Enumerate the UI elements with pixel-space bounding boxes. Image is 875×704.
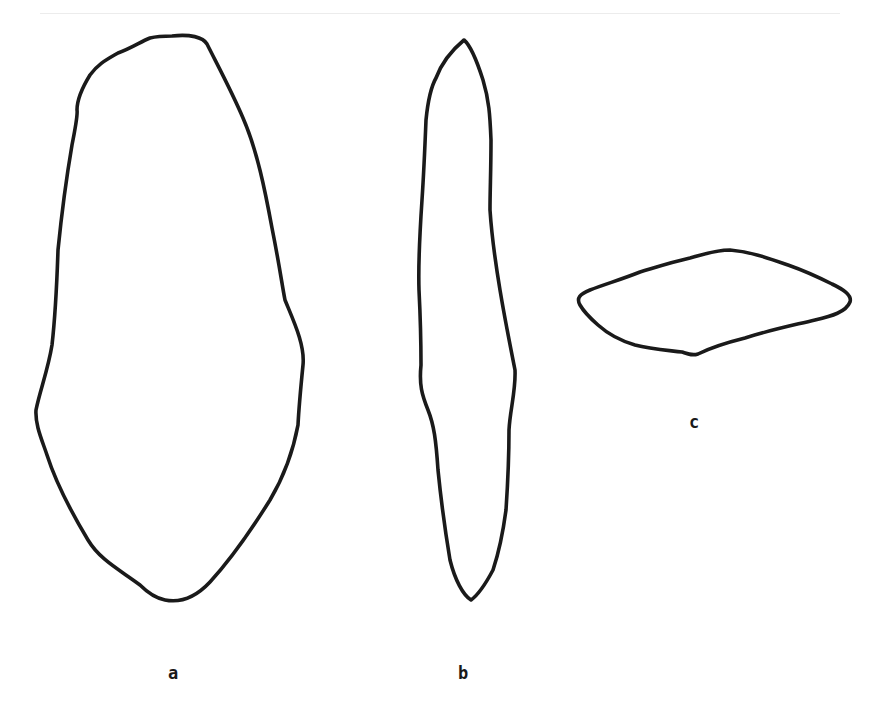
artifact-outline-figure [0,0,875,704]
view-label-c: c [689,412,699,432]
outline-view-b [419,40,515,600]
outline-view-c [578,250,850,355]
view-label-b: b [458,663,468,683]
outline-view-a [36,35,303,600]
view-label-a: a [168,663,178,683]
